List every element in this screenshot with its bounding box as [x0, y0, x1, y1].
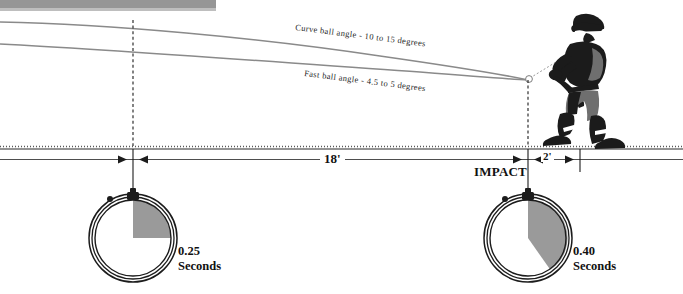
- impact-timer-button: [502, 196, 508, 202]
- arrow-left-inner: [513, 156, 522, 164]
- arrow-right-inner: [139, 156, 148, 164]
- batter-figure-illustration: [543, 14, 625, 149]
- pitch-travel-timer-unit: Seconds: [178, 259, 221, 274]
- impact-timer-dial: [484, 188, 572, 282]
- impact-label: IMPACT: [474, 164, 527, 180]
- pitch-timer-crown: [127, 192, 139, 200]
- diagram-canvas: Curve ball angle - 10 to 15 degrees Fast…: [0, 0, 683, 294]
- impact-timer-crown: [522, 192, 534, 200]
- curve-ball-trajectory-line: [0, 22, 528, 80]
- impact-timer-value: 0.40: [573, 244, 616, 259]
- pitch-timer-button: [107, 196, 113, 202]
- distance-18-feet-label: 18': [320, 151, 345, 167]
- baseball-icon: [526, 76, 533, 83]
- pitch-travel-timer-caption: 0.25 Seconds: [178, 244, 221, 274]
- arrow-left-outer: [118, 156, 127, 164]
- impact-timer-unit: Seconds: [573, 259, 616, 274]
- impact-timer-caption: 0.40 Seconds: [573, 244, 616, 274]
- arrow-stance-left: [565, 156, 574, 164]
- distance-2-feet-label: 2': [541, 150, 554, 162]
- pitch-travel-timer-dial: [89, 188, 177, 282]
- fast-ball-trajectory-line: [0, 44, 528, 80]
- pitch-travel-timer-value: 0.25: [178, 244, 221, 259]
